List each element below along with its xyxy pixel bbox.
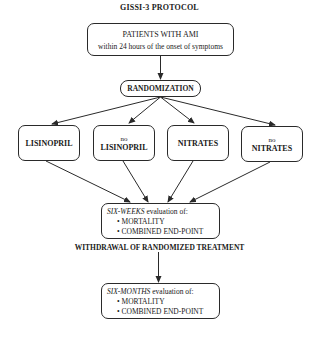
randomization-node: RANDOMIZATION xyxy=(120,80,201,97)
arm-label: LISINOPRIL xyxy=(100,143,147,152)
arm-no-lisinopril: no LISINOPRIL xyxy=(93,125,155,161)
arm-no-nitrates: no NITRATES xyxy=(241,126,303,162)
arm-label: NITRATES xyxy=(252,144,292,153)
diagram-title: GISSI-3 PROTOCOL xyxy=(0,3,319,12)
patients-criteria: within 24 hours of the onset of symptoms xyxy=(98,42,223,51)
randomization-label: RANDOMIZATION xyxy=(127,84,194,93)
arm-label: LISINOPRIL xyxy=(25,139,72,148)
arm-prefix: no xyxy=(121,135,128,143)
six-months-suffix: evaluation of: xyxy=(150,287,193,296)
arm-nitrates: NITRATES xyxy=(167,125,229,161)
arm-prefix: no xyxy=(269,136,276,144)
patients-node: PATIENTS WITH AMI within 24 hours of the… xyxy=(87,23,234,56)
six-months-node: SIX-MONTHS evaluation of: • MORTALITY • … xyxy=(101,283,220,319)
six-weeks-period: SIX-WEEKS xyxy=(107,207,145,216)
withdrawal-label: WITHDRAWAL OF RANDOMIZED TREATMENT xyxy=(0,243,319,252)
arm-label: NITRATES xyxy=(178,139,218,148)
six-weeks-item-mortality: • MORTALITY xyxy=(117,217,219,227)
six-weeks-suffix: evaluation of: xyxy=(145,207,188,216)
six-months-item-combined: • COMBINED END-POINT xyxy=(117,307,219,317)
six-months-item-mortality: • MORTALITY xyxy=(117,297,219,307)
six-months-period: SIX-MONTHS xyxy=(107,287,150,296)
six-weeks-node: SIX-WEEKS evaluation of: • MORTALITY • C… xyxy=(101,203,220,239)
patients-label: PATIENTS WITH AMI xyxy=(122,30,198,39)
arm-lisinopril: LISINOPRIL xyxy=(18,125,80,161)
six-weeks-item-combined: • COMBINED END-POINT xyxy=(117,227,219,237)
